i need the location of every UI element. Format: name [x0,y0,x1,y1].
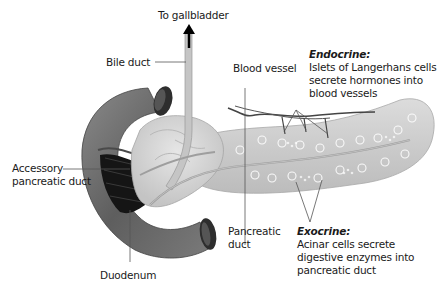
label-accessory-pancreatic-duct: Accessory pancreatic duct [12,162,91,188]
exocrine-line-1: Acinar cells secrete [297,238,414,251]
exocrine-line-2: digestive enzymes into [297,251,414,264]
pancreatic-duct-line-1: Pancreatic [228,225,281,238]
exocrine-heading: Exocrine: [297,225,414,238]
label-duodenum: Duodenum [100,269,156,282]
exocrine-line-3: pancreatic duct [297,264,414,277]
endocrine-line-3: blood vessels [309,87,436,100]
endocrine-line-1: Islets of Langerhans cells [309,61,436,74]
label-pancreatic-duct: Pancreatic duct [228,225,281,251]
pancreatic-duct-line-2: duct [228,238,281,251]
label-endocrine: Endocrine: Islets of Langerhans cells se… [309,48,436,100]
label-exocrine: Exocrine: Acinar cells secrete digestive… [297,225,414,277]
label-to-gallbladder: To gallbladder [158,9,229,22]
pancreas-body [190,99,434,193]
endocrine-heading: Endocrine: [309,48,436,61]
pancreas-head [131,116,223,207]
endocrine-line-2: secrete hormones into [309,74,436,87]
accessory-line-2: pancreatic duct [12,175,91,188]
label-blood-vessel: Blood vessel [233,62,297,75]
blood-vessels [228,108,375,116]
label-bile-duct: Bile duct [106,56,150,69]
accessory-line-1: Accessory [12,162,91,175]
